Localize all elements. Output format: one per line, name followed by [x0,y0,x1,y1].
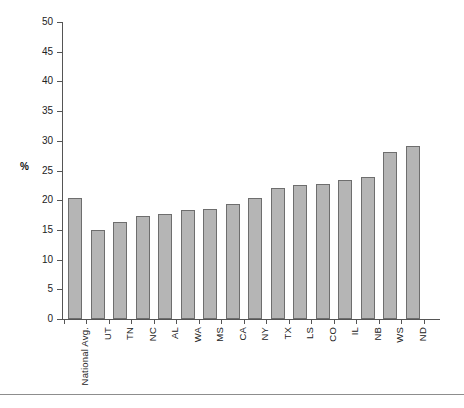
bar [158,214,172,319]
x-axis-tick-label: LS [304,327,315,339]
x-axis-tick-mark [244,320,245,324]
x-axis-tick-mark [199,320,200,324]
x-axis-tick-label: NC [147,327,158,341]
x-axis-tick-label: TX [282,327,293,340]
y-axis-tick-label: 40 [42,74,53,87]
y-axis-tick-label: 0 [47,312,53,325]
y-axis-tick-label: 45 [42,45,53,58]
x-axis-tick-label: CA [237,327,248,341]
bar [113,222,127,319]
x-axis-tick-mark [401,320,402,324]
x-axis-tick-mark [131,320,132,324]
x-axis-tick-label: National Avg. [79,327,90,385]
x-axis-tick-label: IL [349,327,360,335]
x-axis-tick-label: NY [259,327,270,341]
y-axis-tick-label: 35 [42,104,53,117]
x-axis-tick-label: WS [394,327,405,343]
x-axis-tick-mark [424,320,425,324]
y-axis-tick-label: 5 [47,282,53,295]
x-axis-tick-mark [176,320,177,324]
footer-divider [0,394,464,395]
bar [181,210,195,319]
x-axis-tick-label: AL [169,327,180,339]
y-axis-tick-mark [57,319,62,320]
bar [338,180,352,319]
y-axis-tick-label: 30 [42,134,53,147]
y-axis-tick-label: 25 [42,164,53,177]
x-axis-tick-mark [86,320,87,324]
plot-area [62,22,440,319]
x-axis-tick-label: MS [214,327,225,342]
bar [293,185,307,319]
y-axis-tick-label: 50 [42,15,53,28]
bar [406,146,420,319]
x-axis-tick-mark [64,320,65,324]
x-axis-tick-label: WA [192,327,203,342]
y-axis-tick-label: 20 [42,193,53,206]
x-axis-tick-mark [266,320,267,324]
x-axis-tick-label: NB [372,327,383,341]
y-axis-unit-label: % [20,161,29,172]
x-axis-tick-mark [379,320,380,324]
bar [316,184,330,319]
x-axis-tick-mark [154,320,155,324]
bar-chart-figure: % 05101520253035404550 National Avg.UTTN… [0,0,464,408]
bar [226,204,240,319]
bar [248,198,262,319]
x-axis-tick-label: CO [327,327,338,342]
bar [203,209,217,319]
x-axis-tick-mark [334,320,335,324]
x-axis-line [62,319,440,320]
bar [136,216,150,319]
y-axis-tick-label: 15 [42,223,53,236]
x-axis-tick-label: UT [102,327,113,340]
bar [91,230,105,319]
y-axis-tick-label: 10 [42,253,53,266]
bar [271,188,285,319]
x-axis-tick-label: ND [417,327,428,341]
x-axis-tick-mark [289,320,290,324]
bar [383,152,397,319]
x-axis-tick-mark [221,320,222,324]
bar [361,177,375,319]
x-axis-tick-mark [356,320,357,324]
x-axis-tick-label: TN [124,327,135,340]
x-axis-tick-mark [109,320,110,324]
x-axis-tick-mark [311,320,312,324]
bar [68,198,82,319]
